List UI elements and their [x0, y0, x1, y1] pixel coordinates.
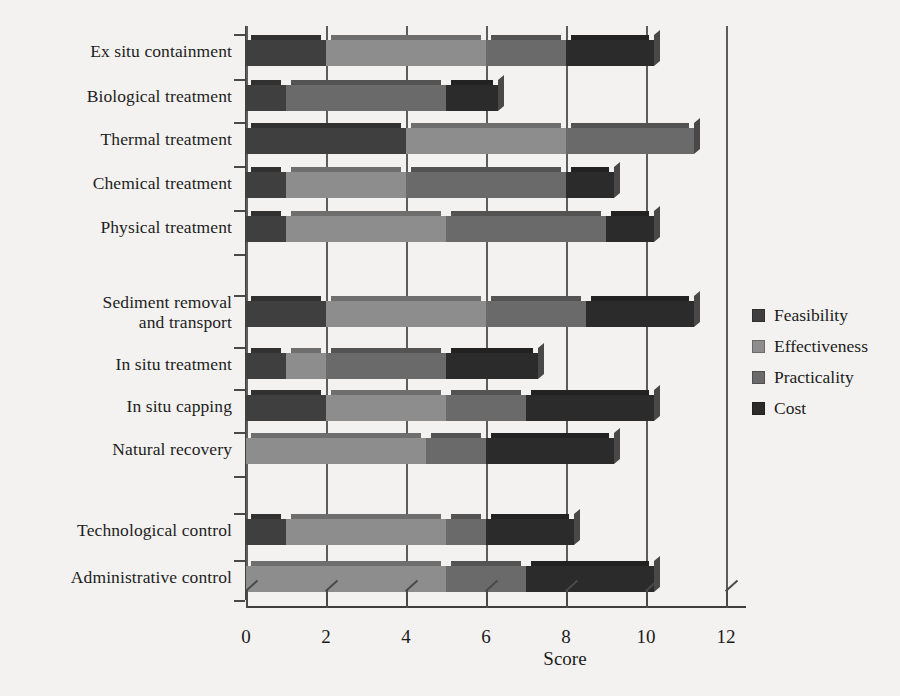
bar-segment-feasibility: [246, 216, 286, 242]
y-axis-tick: [234, 476, 245, 478]
y-axis-label-0: Ex situ containment: [90, 41, 232, 61]
x-axis: 024681012: [236, 606, 756, 609]
legend-item-cost[interactable]: Cost: [752, 393, 892, 424]
legend-swatch-icon: [752, 402, 765, 415]
x-tick-label-4: 4: [391, 626, 421, 648]
bar-segment-feasibility: [246, 85, 286, 111]
bar-segment-feasibility: [246, 353, 286, 379]
y-axis-label-9: Technological control: [77, 520, 232, 540]
y-axis-tick: [234, 254, 245, 256]
x-tick-riser-2: [326, 590, 328, 608]
bar-segment-practicality: [446, 519, 486, 545]
bar-segment-practicality: [406, 172, 566, 198]
bar-segment-feasibility: [246, 301, 326, 327]
bar-end-cap: [654, 206, 660, 242]
bar-end-cap: [694, 118, 700, 154]
x-tick-riser-4: [406, 590, 408, 608]
bar-end-cap: [654, 385, 660, 421]
bar-end-cap: [694, 291, 700, 327]
x-tick-riser-8: [566, 590, 568, 608]
y-axis-tick: [234, 389, 245, 391]
legend-item-practicality[interactable]: Practicality: [752, 362, 892, 393]
bar-end-cap: [614, 428, 620, 464]
bar-segment-practicality: [426, 438, 486, 464]
bar-segment-effectiveness: [406, 128, 566, 154]
y-axis-tick: [234, 432, 245, 434]
x-tick-label-12: 12: [711, 626, 741, 648]
bar-end-cap: [654, 556, 660, 592]
bar-segment-cost: [486, 519, 574, 545]
y-axis-label-5: Sediment removal and transport: [103, 292, 232, 332]
y-axis-label-3: Chemical treatment: [93, 173, 232, 193]
y-axis-label-4: Physical treatment: [100, 217, 232, 237]
bar-segment-cost: [526, 395, 654, 421]
x-tick-riser-6: [486, 590, 488, 608]
y-axis-tick: [234, 295, 245, 297]
legend-swatch-icon: [752, 309, 765, 322]
y-axis-tick: [234, 34, 245, 36]
bar-end-cap: [654, 30, 660, 66]
bar-segment-effectiveness: [326, 301, 486, 327]
bar-segment-cost: [446, 353, 538, 379]
bar-segment-practicality: [566, 128, 694, 154]
bar-segment-practicality: [486, 301, 586, 327]
legend-item-label: Cost: [774, 398, 806, 419]
y-axis-tick: [234, 560, 245, 562]
y-axis-label-1: Biological treatment: [87, 86, 232, 106]
bar-segment-cost: [566, 40, 654, 66]
chart-figure: Ex situ containmentBiological treatmentT…: [0, 0, 900, 696]
bar-segment-feasibility: [246, 395, 326, 421]
bar-segment-practicality: [326, 353, 446, 379]
x-axis-line: [246, 606, 746, 608]
legend-item-label: Feasibility: [774, 305, 848, 326]
legend-item-effectiveness[interactable]: Effectiveness: [752, 331, 892, 362]
plot-area: [246, 26, 726, 600]
x-tick-label-8: 8: [551, 626, 581, 648]
bar-segment-effectiveness: [246, 438, 426, 464]
bar-segment-cost: [606, 216, 654, 242]
bar-segment-effectiveness: [286, 216, 446, 242]
legend-item-label: Effectiveness: [774, 336, 868, 357]
bar-segment-cost: [526, 566, 654, 592]
y-axis-tick: [234, 347, 245, 349]
legend-swatch-icon: [752, 371, 765, 384]
bar-segment-practicality: [446, 216, 606, 242]
gridline-12: [726, 26, 728, 600]
y-axis-label-2: Thermal treatment: [101, 129, 232, 149]
y-axis-tick: [234, 513, 245, 515]
x-tick-label-6: 6: [471, 626, 501, 648]
legend-item-label: Practicality: [774, 367, 854, 388]
bar-segment-feasibility: [246, 519, 286, 545]
y-axis-tick: [234, 210, 245, 212]
bar-segment-feasibility: [246, 128, 406, 154]
legend-item-feasibility[interactable]: Feasibility: [752, 300, 892, 331]
bar-end-cap: [574, 509, 580, 545]
x-tick-riser-10: [646, 590, 648, 608]
y-axis-tick: [234, 122, 245, 124]
x-axis-label: Score: [0, 648, 900, 670]
legend-swatch-icon: [752, 340, 765, 353]
bar-segment-practicality: [446, 395, 526, 421]
bar-segment-cost: [486, 438, 614, 464]
x-tick-riser-0: [246, 590, 248, 608]
y-axis-label-10: Administrative control: [71, 567, 232, 587]
y-axis-tick: [234, 79, 245, 81]
y-axis-label-8: Natural recovery: [112, 439, 232, 459]
y-axis-tick: [234, 166, 245, 168]
bar-segment-cost: [446, 85, 498, 111]
bar-segment-effectiveness: [286, 353, 326, 379]
bar-segment-effectiveness: [286, 519, 446, 545]
bar-end-cap: [538, 343, 544, 379]
legend: FeasibilityEffectivenessPracticalityCost: [752, 300, 892, 424]
bar-segment-effectiveness: [326, 395, 446, 421]
bar-segment-feasibility: [246, 172, 286, 198]
bar-segment-cost: [566, 172, 614, 198]
bar-segment-effectiveness: [286, 172, 406, 198]
y-axis-label-7: In situ capping: [126, 396, 232, 416]
x-tick-label-2: 2: [311, 626, 341, 648]
bar-segment-practicality: [286, 85, 446, 111]
x-tick-riser-12: [726, 590, 728, 608]
bar-segment-practicality: [486, 40, 566, 66]
x-tick-label-0: 0: [231, 626, 261, 648]
x-tick-label-10: 10: [631, 626, 661, 648]
